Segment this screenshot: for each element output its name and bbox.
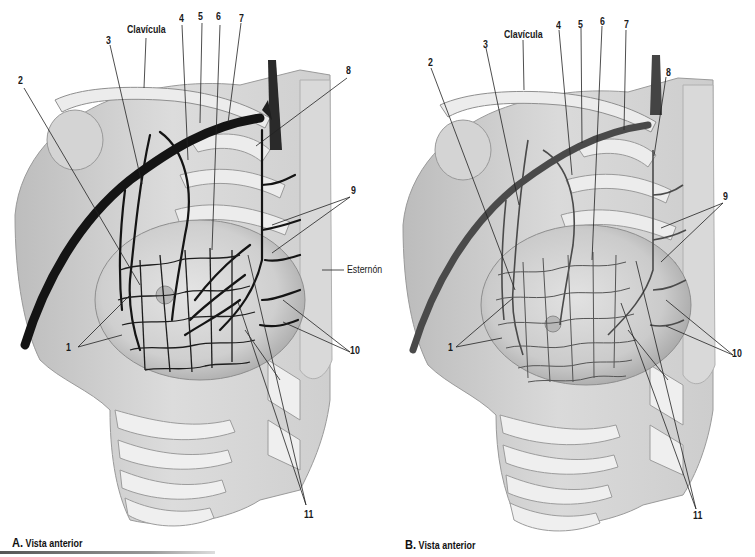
label-9: 9 (351, 186, 356, 196)
label-10: 10 (732, 349, 742, 359)
caption-b: B.Vista anterior (405, 535, 475, 553)
label-11: 11 (693, 511, 702, 521)
anatomy-illustration-a (0, 0, 378, 557)
label-2: 2 (428, 58, 433, 68)
divider-rule (0, 551, 215, 554)
panel-b: Clavícula 2 3 4 5 6 7 8 9 1 10 11 B.Vist… (378, 0, 755, 557)
label-3: 3 (483, 40, 488, 50)
caption-a: A.Vista anterior (12, 533, 82, 551)
label-9: 9 (723, 192, 728, 202)
caption-letter: A. (12, 535, 23, 550)
label-4: 4 (556, 21, 561, 31)
label-4: 4 (179, 14, 184, 24)
label-7: 7 (624, 20, 629, 30)
label-3: 3 (106, 36, 111, 46)
panel-a: Clavícula 2 3 4 5 6 7 8 9 Esternón 1 10 … (0, 0, 378, 557)
caption-letter: B. (405, 537, 416, 552)
label-1: 1 (66, 343, 71, 353)
caption-text: Vista anterior (419, 539, 476, 551)
label-2: 2 (18, 76, 23, 86)
label-11: 11 (304, 510, 313, 520)
label-6: 6 (600, 17, 605, 27)
label-clavicula: Clavícula (504, 30, 543, 40)
label-7: 7 (239, 14, 244, 24)
caption-text: Vista anterior (26, 537, 83, 549)
label-6: 6 (216, 12, 221, 22)
label-5: 5 (578, 20, 583, 30)
label-5: 5 (198, 12, 203, 22)
label-clavicula: Clavícula (127, 25, 166, 35)
label-8: 8 (346, 66, 351, 76)
label-esternon: Esternón (347, 265, 382, 275)
anatomy-illustration-b (378, 0, 755, 557)
label-8: 8 (666, 68, 671, 78)
label-1: 1 (448, 343, 453, 353)
label-10: 10 (350, 346, 360, 356)
